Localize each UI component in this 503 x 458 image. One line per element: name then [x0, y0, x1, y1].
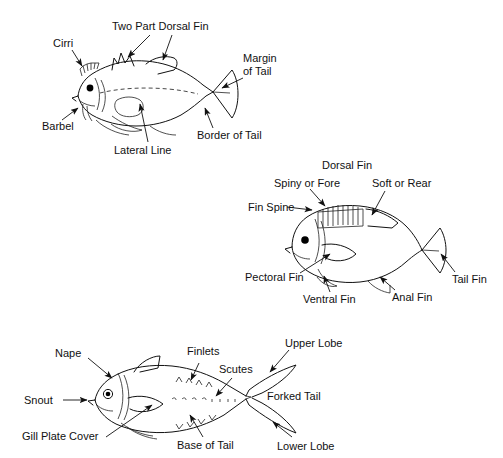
- label-snout: Snout: [24, 394, 53, 406]
- label-dorsal-fin: Dorsal Fin: [322, 159, 372, 171]
- panel-middle-labels: Dorsal Fin Spiny or Fore Soft or Rear Fi…: [245, 159, 487, 305]
- label-barbel: Barbel: [42, 120, 74, 132]
- label-two-part-dorsal-fin: Two Part Dorsal Fin: [112, 20, 209, 32]
- panel-bottom-labels: Nape Finlets Scutes Upper Lobe Snout For…: [22, 337, 343, 452]
- label-anal-fin: Anal Fin: [392, 291, 432, 303]
- label-spiny-or-fore: Spiny or Fore: [274, 177, 340, 189]
- label-lateral-line: Lateral Line: [114, 144, 172, 156]
- label-tail-fin: Tail Fin: [452, 273, 487, 285]
- panel-middle-fish-drawing: [285, 205, 446, 293]
- label-soft-or-rear: Soft or Rear: [372, 177, 432, 189]
- panel-top-fish-drawing: [72, 53, 238, 135]
- fish-anatomy-diagram: Cirri Two Part Dorsal Fin Margin of Tail…: [0, 0, 503, 458]
- label-pectoral-fin: Pectoral Fin: [245, 271, 304, 283]
- label-nape: Nape: [55, 347, 81, 359]
- label-ventral-fin: Ventral Fin: [303, 293, 356, 305]
- label-margin-of-tail-2: of Tail: [243, 65, 272, 77]
- label-cirri: Cirri: [53, 37, 73, 49]
- label-border-of-tail: Border of Tail: [197, 129, 262, 141]
- label-forked-tail: Forked Tail: [267, 390, 321, 402]
- label-lower-lobe: Lower Lobe: [277, 440, 335, 452]
- label-margin-of-tail: Margin: [243, 52, 277, 64]
- label-fin-spine: Fin Spine: [248, 201, 294, 213]
- label-base-of-tail: Base of Tail: [177, 439, 234, 451]
- label-scutes: Scutes: [219, 363, 253, 375]
- panel-bottom-fish-drawing: [88, 356, 296, 439]
- label-upper-lobe: Upper Lobe: [285, 337, 343, 349]
- label-gill-plate-cover: Gill Plate Cover: [22, 430, 99, 442]
- label-finlets: Finlets: [187, 345, 220, 357]
